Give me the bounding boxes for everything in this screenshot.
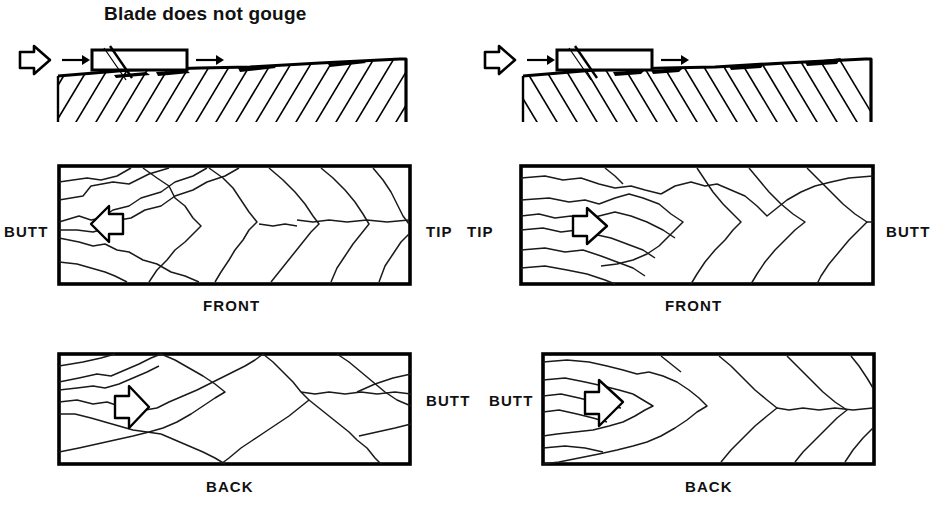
motion-arrow-right-2 xyxy=(661,55,689,65)
push-arrow-left xyxy=(20,46,50,74)
back-panel-left xyxy=(57,352,412,466)
figure-canvas: Blade does not gouge xyxy=(0,0,930,509)
face-label-back-right: BACK xyxy=(685,479,733,494)
back-panel-right xyxy=(541,352,876,466)
end-label-butt-back-left: BUTT xyxy=(426,393,470,408)
edge-view-right xyxy=(465,22,905,130)
front-panel-left xyxy=(57,164,412,286)
blade-right xyxy=(557,46,652,80)
end-label-tip-front-left: TIP xyxy=(426,224,453,239)
end-label-butt-front-right: BUTT xyxy=(886,224,930,239)
edge-view-left xyxy=(0,22,440,130)
motion-arrow-right-1 xyxy=(527,55,555,65)
end-label-butt-back-right: BUTT xyxy=(489,393,533,408)
motion-arrow-left-1 xyxy=(62,55,90,65)
end-label-tip-front-right: TIP xyxy=(467,224,494,239)
caption-blade-does-not-gouge: Blade does not gouge xyxy=(104,4,306,23)
motion-arrow-left-2 xyxy=(196,55,224,65)
push-arrow-right xyxy=(485,46,515,74)
front-panel-right xyxy=(519,164,875,286)
end-label-butt-front-left: BUTT xyxy=(4,224,48,239)
face-label-front-right: FRONT xyxy=(665,298,722,313)
face-label-front-left: FRONT xyxy=(203,298,260,313)
face-label-back-left: BACK xyxy=(206,479,254,494)
